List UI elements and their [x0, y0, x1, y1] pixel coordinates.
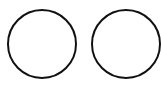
- diagram-canvas: [0, 0, 161, 86]
- right-circle: [91, 9, 161, 79]
- left-circle: [7, 9, 77, 79]
